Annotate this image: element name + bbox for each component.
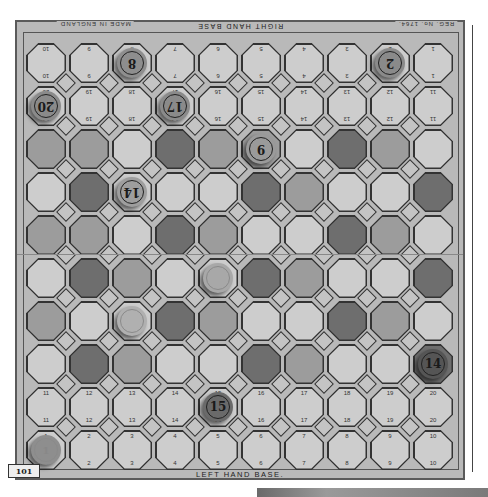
space-number: 6 xyxy=(198,73,238,79)
board-space[interactable] xyxy=(155,344,195,384)
board-space[interactable] xyxy=(370,129,410,169)
board-space[interactable] xyxy=(69,215,109,255)
board-space[interactable] xyxy=(69,301,109,341)
space-number: 19 xyxy=(69,89,109,95)
space-number: 4 xyxy=(155,433,195,439)
space-number: 1 xyxy=(413,46,453,52)
board-space[interactable] xyxy=(327,301,367,341)
space-number: 3 xyxy=(112,433,152,439)
game-piece[interactable]: 8 xyxy=(117,48,147,78)
space-number: 3 xyxy=(112,460,152,466)
game-piece[interactable]: 2 xyxy=(375,48,405,78)
board-space[interactable] xyxy=(198,215,238,255)
game-piece[interactable]: 17 xyxy=(160,91,190,121)
space-number: 19 xyxy=(370,390,410,396)
game-piece[interactable]: 20 xyxy=(31,91,61,121)
board-space[interactable] xyxy=(26,215,66,255)
board-space[interactable] xyxy=(370,344,410,384)
space-number: 18 xyxy=(327,390,367,396)
board-space[interactable] xyxy=(413,301,453,341)
board-space[interactable] xyxy=(284,344,324,384)
board-space[interactable] xyxy=(413,258,453,298)
board-space[interactable] xyxy=(413,215,453,255)
board-space[interactable] xyxy=(26,301,66,341)
board-space[interactable] xyxy=(155,215,195,255)
board-space[interactable] xyxy=(370,172,410,212)
board-space[interactable] xyxy=(26,172,66,212)
board-space[interactable] xyxy=(26,258,66,298)
space-number: 14 xyxy=(284,89,324,95)
space-number: 18 xyxy=(112,89,152,95)
space-number: 7 xyxy=(155,73,195,79)
board-space[interactable] xyxy=(69,344,109,384)
game-piece[interactable] xyxy=(203,263,233,293)
board-space[interactable] xyxy=(370,301,410,341)
board-space[interactable] xyxy=(155,258,195,298)
board-space[interactable] xyxy=(370,215,410,255)
board-space[interactable] xyxy=(284,215,324,255)
game-piece[interactable] xyxy=(117,306,147,336)
board-space[interactable] xyxy=(327,172,367,212)
board-space[interactable] xyxy=(26,129,66,169)
space-number: 7 xyxy=(155,46,195,52)
piece-number xyxy=(206,266,230,290)
board-space[interactable] xyxy=(370,258,410,298)
board-space[interactable] xyxy=(69,258,109,298)
board-space[interactable] xyxy=(241,258,281,298)
board-space[interactable] xyxy=(198,301,238,341)
game-piece[interactable]: 1 xyxy=(31,435,61,465)
board-space[interactable] xyxy=(284,258,324,298)
board-space[interactable] xyxy=(112,129,152,169)
board-space[interactable] xyxy=(155,172,195,212)
board-space[interactable] xyxy=(413,129,453,169)
board-space[interactable] xyxy=(112,344,152,384)
board-space[interactable] xyxy=(26,344,66,384)
board-space[interactable] xyxy=(327,258,367,298)
space-number: 6 xyxy=(198,46,238,52)
space-number: 9 xyxy=(370,460,410,466)
board-space[interactable] xyxy=(155,129,195,169)
board-space[interactable] xyxy=(69,172,109,212)
board-space[interactable] xyxy=(241,344,281,384)
game-board: 1010998877665544332211202019191818171716… xyxy=(15,20,465,480)
piece-number: 1 xyxy=(34,438,58,462)
game-piece[interactable]: 14 xyxy=(418,349,448,379)
board-space[interactable] xyxy=(112,258,152,298)
space-number: 16 xyxy=(241,417,281,423)
space-number: 12 xyxy=(69,417,109,423)
space-number: 20 xyxy=(413,390,453,396)
space-number: 1 xyxy=(413,73,453,79)
board-space[interactable] xyxy=(327,344,367,384)
space-number: 19 xyxy=(370,417,410,423)
piece-number: 14 xyxy=(421,352,445,376)
space-number: 6 xyxy=(241,460,281,466)
space-number: 12 xyxy=(370,89,410,95)
board-space[interactable] xyxy=(284,172,324,212)
game-piece[interactable]: 14 xyxy=(117,177,147,207)
space-number: 9 xyxy=(69,46,109,52)
game-piece[interactable]: 9 xyxy=(246,134,276,164)
board-space[interactable] xyxy=(198,129,238,169)
board-space[interactable] xyxy=(241,172,281,212)
board-space[interactable] xyxy=(69,129,109,169)
space-number: 10 xyxy=(26,73,66,79)
space-number: 9 xyxy=(370,433,410,439)
board-space[interactable] xyxy=(284,301,324,341)
board-space[interactable] xyxy=(112,215,152,255)
space-number: 16 xyxy=(198,89,238,95)
board-space[interactable] xyxy=(155,301,195,341)
space-number: 13 xyxy=(112,390,152,396)
board-space[interactable] xyxy=(241,301,281,341)
board-space[interactable] xyxy=(198,172,238,212)
game-piece[interactable]: 15 xyxy=(203,392,233,422)
board-space[interactable] xyxy=(327,129,367,169)
space-number: 14 xyxy=(155,390,195,396)
space-number: 2 xyxy=(69,460,109,466)
board-space[interactable] xyxy=(241,215,281,255)
space-number: 10 xyxy=(413,433,453,439)
board-space[interactable] xyxy=(284,129,324,169)
board-space[interactable] xyxy=(198,344,238,384)
registration-text: REG. No. 1764. xyxy=(395,21,457,27)
board-space[interactable] xyxy=(413,172,453,212)
board-space[interactable] xyxy=(327,215,367,255)
